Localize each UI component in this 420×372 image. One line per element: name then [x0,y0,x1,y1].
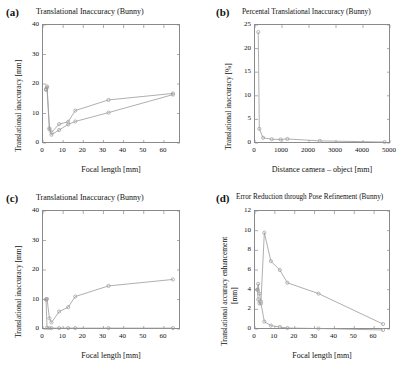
y-tick-label: 20 [16,265,39,273]
panel-d-x-axis-label: Focal length [mm] [252,351,392,360]
panel-d-plot-area [254,210,390,329]
panel-a-letter: (a) [6,6,19,18]
y-tick-label: 10 [16,109,39,117]
panel-c-title: Translational Inaccuracy (Bunny) [36,193,144,202]
panel-a-header: (a) Translational Inaccuracy (Bunny) [0,6,210,20]
panel-b-plot-area [254,24,390,143]
panel-c-plot-area [42,210,180,329]
panel-b-y-axis-label: Translational inaccuracy [%] [224,63,233,150]
panel-d-title: Error Reduction through Pose Refinement … [236,193,383,201]
data-line-upper [46,86,173,132]
y-tick-label: 40 [16,206,39,214]
panel-d: (d) Error Reduction through Pose Refinem… [210,186,420,372]
y-tick-label: 0 [16,138,39,146]
data-line-lower [257,290,383,330]
y-tick-label: 15 [228,67,251,75]
y-tick-label: 12 [228,206,251,214]
y-tick-label: 30 [16,50,39,58]
data-line-before-refinement [46,279,173,322]
y-tick-label: 0 [228,324,251,332]
x-tick-label: 60 [359,332,387,340]
y-tick-label: 40 [16,20,39,28]
x-tick-label: 5000 [375,146,403,154]
y-tick-label: 20 [228,44,251,52]
x-tick-label: 4000 [348,146,376,154]
panel-c-series-layer [43,211,181,330]
y-tick-label: 5 [228,114,251,122]
panel-b: (b) Percental Translational Inaccuracy (… [210,0,420,186]
y-tick-label: 25 [228,20,251,28]
y-tick-label: 8 [228,245,251,253]
data-point [381,322,384,325]
x-tick-label: 60 [149,146,177,154]
panel-d-series-layer [255,211,391,330]
panel-a-title: Translational Inaccuracy (Bunny) [36,7,144,16]
y-tick-label: 10 [228,91,251,99]
y-tick-label: 30 [16,236,39,244]
y-tick-label: 20 [16,79,39,87]
y-tick-label: 0 [228,138,251,146]
panel-b-series-layer [255,25,391,144]
panel-c: (c) Translational Inaccuracy (Bunny) Tra… [0,186,210,372]
panel-a: (a) Translational Inaccuracy (Bunny) Tra… [0,0,210,186]
panel-b-x-axis-label: Distance camera – object [mm] [252,165,392,174]
panel-c-letter: (c) [6,192,18,204]
x-tick-label: 2000 [294,146,322,154]
figure-multipanel: (a) Translational Inaccuracy (Bunny) Tra… [0,0,420,372]
panel-a-plot-area [42,24,180,143]
x-tick-label: 1000 [267,146,295,154]
y-tick-label: 0 [16,324,39,332]
x-tick-label: 60 [149,332,177,340]
x-tick-label: 0 [240,146,268,154]
y-tick-label: 10 [228,226,251,234]
data-line-upper [257,233,383,324]
data-line-percental-inaccuracy [258,32,384,142]
data-line-after-refinement [46,300,173,329]
y-tick-label: 6 [228,265,251,273]
panel-c-x-axis-label: Focal length [mm] [42,351,180,360]
panel-d-header: (d) Error Reduction through Pose Refinem… [210,192,420,206]
x-tick-label: 3000 [321,146,349,154]
panel-b-header: (b) Percental Translational Inaccuracy (… [210,6,420,20]
panel-b-letter: (b) [216,6,229,18]
panel-a-series-layer [43,25,181,144]
panel-c-header: (c) Translational Inaccuracy (Bunny) [0,192,210,206]
panel-d-letter: (d) [216,192,229,204]
y-tick-label: 10 [16,295,39,303]
y-tick-label: 2 [228,304,251,312]
y-tick-label: 4 [228,285,251,293]
panel-b-title: Percental Translational Inaccuracy (Bunn… [242,7,371,16]
panel-a-x-axis-label: Focal length [mm] [42,165,180,174]
